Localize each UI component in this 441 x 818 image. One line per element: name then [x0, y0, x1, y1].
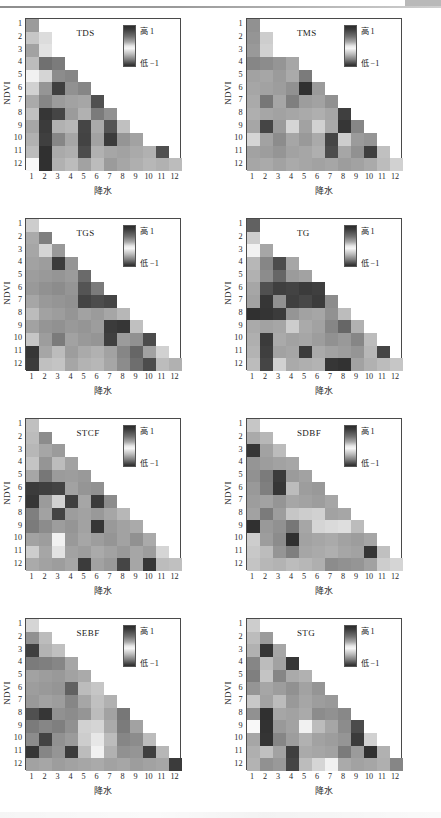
heatmap-cell	[286, 533, 299, 546]
colorbar-low-label: 低 −1	[361, 656, 380, 668]
heatmap-cell	[39, 670, 52, 683]
heatmap-cell	[52, 457, 65, 470]
heatmap-cell	[299, 320, 312, 333]
heatmap-cell	[273, 295, 286, 308]
heatmap-cell	[325, 346, 338, 359]
x-tick-label: 5	[297, 173, 311, 181]
heatmap-cell	[377, 546, 390, 559]
heatmap-cell	[260, 95, 273, 108]
heatmap-cell	[312, 95, 325, 108]
heatmap-cell	[247, 146, 260, 159]
heatmap-cell	[117, 308, 130, 321]
x-tick-label: 3	[271, 373, 285, 381]
heatmap-cell	[312, 758, 325, 771]
y-tick-label: 9	[228, 122, 243, 130]
x-tick-label: 4	[64, 573, 78, 581]
x-tick-label: 8	[336, 573, 350, 581]
panel-tms: 123456789101112123456789101112NDVI降水TMS高…	[221, 10, 441, 210]
heatmap-cell	[260, 82, 273, 95]
heatmap-cell	[273, 444, 286, 457]
heatmap-cell	[26, 708, 39, 721]
heatmap-cell	[247, 533, 260, 546]
heatmap-cell	[130, 333, 143, 346]
x-axis-label: 降水	[246, 184, 402, 197]
x-tick-label: 3	[51, 773, 65, 781]
heatmap-cell	[52, 533, 65, 546]
y-tick-label: 4	[7, 258, 22, 266]
heatmap-cell	[299, 333, 312, 346]
heatmap-cell	[65, 120, 78, 133]
heatmap-cell	[65, 108, 78, 121]
heatmap-cell	[325, 758, 338, 771]
heatmap-cell	[130, 346, 143, 359]
y-tick-label: 12	[7, 160, 22, 168]
heatmap-cell	[286, 146, 299, 159]
heatmap-cell	[78, 670, 91, 683]
heatmap-cell	[377, 746, 390, 759]
heatmap-cell	[78, 346, 91, 359]
x-tick-label: 12	[388, 773, 402, 781]
x-tick-label: 1	[245, 173, 259, 181]
heatmap-cell	[26, 733, 39, 746]
x-tick-label: 9	[129, 173, 143, 181]
x-tick-label: 1	[25, 573, 39, 581]
y-tick-label: 2	[228, 33, 243, 41]
colorbar-gradient	[123, 425, 136, 467]
heatmap-cell	[52, 470, 65, 483]
heatmap-cell	[247, 644, 260, 657]
heatmap-cell	[52, 358, 65, 371]
heatmap-cell	[364, 558, 377, 571]
y-tick-label: 11	[228, 547, 243, 555]
heatmap-cell	[260, 695, 273, 708]
heatmap-cell	[325, 95, 338, 108]
heatmap-cell	[104, 546, 117, 559]
heatmap-cell	[104, 520, 117, 533]
heatmap-cell	[78, 746, 91, 759]
panel-row: 123456789101112123456789101112NDVI降水TGS高…	[0, 210, 441, 410]
heatmap-cell	[364, 546, 377, 559]
colorbar-low-label: 低 −1	[140, 656, 159, 668]
heatmap-cell	[91, 95, 104, 108]
heatmap-cell	[377, 146, 390, 159]
heatmap-cell	[351, 520, 364, 533]
plot-frame	[246, 618, 402, 770]
x-tick-label: 3	[271, 173, 285, 181]
x-tick-label: 12	[168, 173, 182, 181]
colorbar-low-label: 低 −1	[361, 256, 380, 268]
heatmap-cell	[39, 457, 52, 470]
y-tick-label: 4	[7, 458, 22, 466]
x-tick-label: 11	[155, 773, 169, 781]
heatmap-cell	[39, 682, 52, 695]
heatmap-cell	[351, 746, 364, 759]
heatmap-cell	[325, 720, 338, 733]
y-tick-label: 9	[7, 122, 22, 130]
heatmap-cell	[286, 320, 299, 333]
heatmap-cell	[26, 295, 39, 308]
heatmap-cell	[260, 308, 273, 321]
heatmap-cell	[286, 708, 299, 721]
heatmap-cell	[247, 419, 260, 432]
heatmap-cell	[260, 270, 273, 283]
heatmap-cell	[26, 508, 39, 521]
heatmap-cell	[273, 482, 286, 495]
heatmap-cell	[91, 758, 104, 771]
heatmap-cell	[117, 558, 130, 571]
heatmap-cell	[247, 432, 260, 445]
heatmap-cell	[78, 695, 91, 708]
heatmap-cells	[26, 419, 180, 569]
heatmap-cell	[78, 95, 91, 108]
x-tick-label: 5	[77, 373, 91, 381]
heatmap-cell	[338, 758, 351, 771]
x-tick-label: 2	[38, 573, 52, 581]
y-tick-label: 2	[7, 633, 22, 641]
heatmap-cell	[247, 657, 260, 670]
heatmap-cell	[247, 82, 260, 95]
heatmap-cell	[52, 520, 65, 533]
colorbar-gradient	[123, 225, 136, 267]
heatmap-cell	[65, 746, 78, 759]
heatmap-cell	[286, 682, 299, 695]
heatmap-cell	[39, 746, 52, 759]
heatmap-cell	[65, 308, 78, 321]
heatmap-cell	[260, 57, 273, 70]
heatmap-cell	[104, 295, 117, 308]
